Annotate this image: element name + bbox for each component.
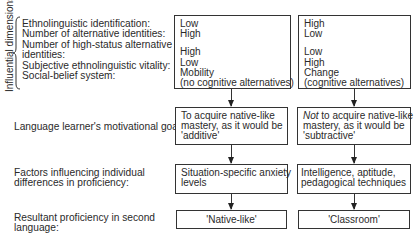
right-factors-line: pedagogical techniques: [301, 178, 405, 188]
left-dimension-value: (no cognitive alternatives): [180, 78, 285, 88]
right-dimension-value: Low: [304, 29, 405, 39]
left-dimensions-box: Low High High Low Mobility (no cognitive…: [174, 15, 291, 89]
dimension-label: Social-belief system:: [22, 71, 172, 81]
right-dimension-value: (cognitive alternatives): [304, 78, 405, 88]
result-row-label: Resultant proficiency in second language…: [14, 213, 155, 234]
left-goals-line: 'additive': [181, 131, 282, 141]
left-goals-box: To acquire native-like mastery, as it wo…: [175, 107, 288, 145]
goals-row-label: Language learner's motivational goals:: [14, 122, 188, 132]
right-dimensions-box: High Low Low High Change (cognitive alte…: [298, 15, 411, 89]
arrow-down-icon: [354, 194, 355, 209]
left-factors-box: Situation-specific anxiety levels: [175, 164, 288, 194]
right-goals-line: 'subtractive': [303, 131, 405, 141]
left-factors-line: levels: [181, 178, 282, 188]
factors-row-label-line: differences in proficiency:: [14, 178, 145, 188]
factors-row-label: Factors influencing individual differenc…: [14, 168, 145, 189]
left-dimension-value: High: [180, 29, 285, 39]
arrow-down-icon: [354, 145, 355, 163]
result-row-label-line: language:: [14, 223, 155, 233]
right-factors-box: Intelligence, aptitude, pedagogical tech…: [297, 164, 411, 194]
right-goals-box: Not to acquire native-like mastery, as i…: [297, 107, 411, 145]
left-brace-icon: [13, 16, 19, 90]
right-result-box: 'Classroom': [298, 210, 410, 229]
arrow-down-icon: [231, 194, 232, 209]
arrow-down-icon: [354, 89, 355, 106]
arrow-down-icon: [231, 145, 232, 163]
left-result-box: 'Native-like': [176, 210, 287, 229]
dimension-labels: Ethnolinguistic identification: Number o…: [22, 19, 172, 81]
arrow-down-icon: [231, 89, 232, 106]
